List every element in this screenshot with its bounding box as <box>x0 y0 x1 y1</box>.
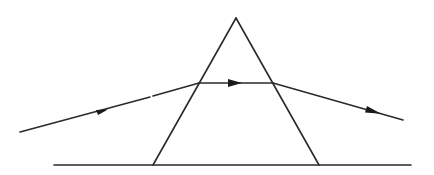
incident-ray <box>20 97 150 132</box>
prism-diagram <box>0 0 434 175</box>
incident-ray-arrow-icon <box>96 110 108 115</box>
emergent-ray <box>273 83 403 120</box>
emergent-ray-arrow-icon <box>365 106 381 114</box>
incident-ray-continuation <box>153 83 199 96</box>
internal-ray-arrow-icon <box>228 79 242 87</box>
prism-left-face <box>153 18 236 165</box>
prism-right-face <box>236 18 319 165</box>
